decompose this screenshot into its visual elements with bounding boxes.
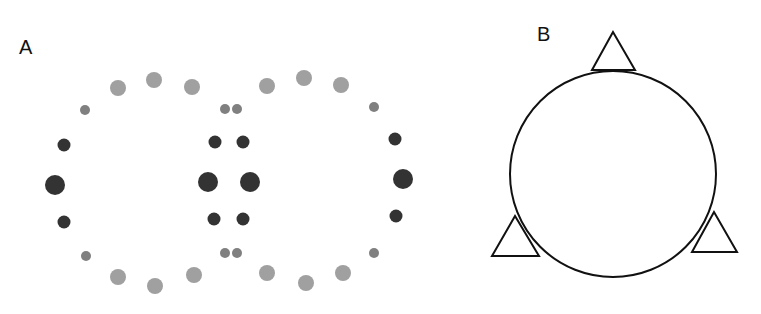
figure-canvas [0, 0, 761, 314]
dot-light [184, 79, 200, 95]
panel-a-dot-array [45, 70, 413, 294]
dot-dark [198, 172, 218, 192]
dot-light [147, 278, 163, 294]
dot-mid [369, 248, 379, 258]
dot-light [110, 80, 126, 96]
dot-dark [237, 136, 250, 149]
panel-b-circle-triangles [492, 32, 737, 277]
dot-dark [45, 175, 65, 195]
dot-dark [390, 210, 403, 223]
dot-dark [58, 216, 71, 229]
dot-mid [220, 248, 230, 258]
dot-mid [369, 102, 379, 112]
dot-dark [393, 169, 413, 189]
dot-dark [389, 133, 402, 146]
dot-mid [232, 248, 242, 258]
triangle-top [592, 32, 635, 70]
dot-dark [237, 213, 250, 226]
dot-light [333, 77, 349, 93]
dot-mid [232, 104, 242, 114]
dot-mid [81, 251, 91, 261]
dot-dark [209, 136, 222, 149]
dot-light [259, 78, 275, 94]
dot-light [146, 72, 162, 88]
dot-light [298, 275, 314, 291]
dot-dark [208, 213, 221, 226]
dot-mid [80, 105, 90, 115]
dot-dark [58, 139, 71, 152]
circle-outline [510, 71, 716, 277]
dot-light [110, 269, 126, 285]
dot-mid [220, 104, 230, 114]
dot-light [335, 265, 351, 281]
dot-light [186, 267, 202, 283]
dot-light [259, 265, 275, 281]
dot-light [296, 70, 312, 86]
dot-dark [240, 172, 260, 192]
